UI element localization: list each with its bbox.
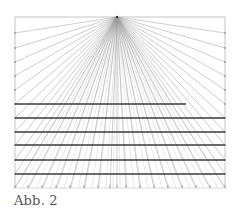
perspective-ray: [117, 17, 225, 132]
perspective-ray: [117, 17, 225, 33]
edge-tick: [14, 61, 16, 63]
perspective-ray: [117, 17, 182, 188]
edge-tick: [14, 47, 16, 49]
perspective-ray: [15, 17, 117, 62]
edge-tick: [224, 103, 226, 105]
perspective-ray: [70, 17, 117, 188]
perspective-ray: [117, 17, 196, 188]
diagram-frame: [15, 17, 225, 188]
horizontal-lines: [15, 104, 225, 174]
perspective-ray: [117, 17, 218, 188]
figure-caption: Abb. 2: [14, 193, 58, 208]
vanishing-point: [116, 16, 118, 18]
perspective-ray: [117, 17, 225, 145]
perspective-ray: [15, 17, 117, 90]
perspective-ray: [64, 17, 117, 188]
perspective-ray: [117, 17, 225, 188]
edge-tick: [224, 61, 226, 63]
edge-tick: [14, 89, 16, 91]
edge-tick: [14, 75, 16, 77]
perspective-ray: [15, 17, 117, 33]
perspective-ray: [36, 17, 117, 188]
edge-tick: [224, 47, 226, 49]
perspective-ray: [42, 17, 117, 188]
edge-tick: [14, 32, 16, 34]
perspective-ray: [15, 17, 117, 145]
perspective-ray: [117, 17, 225, 174]
perspective-ray: [117, 17, 176, 188]
perspective-ray: [43, 17, 117, 188]
perspective-rays: [14, 17, 226, 188]
perspective-ray: [117, 17, 183, 188]
perspective-ray: [56, 17, 117, 188]
perspective-ray: [50, 17, 117, 188]
perspective-ray: [98, 17, 117, 188]
edge-tick: [224, 89, 226, 91]
edge-tick: [224, 32, 226, 34]
perspective-diagram: [0, 0, 240, 211]
perspective-ray: [117, 17, 225, 48]
perspective-ray: [15, 17, 117, 160]
perspective-ray: [22, 17, 117, 188]
edge-tick: [224, 75, 226, 77]
